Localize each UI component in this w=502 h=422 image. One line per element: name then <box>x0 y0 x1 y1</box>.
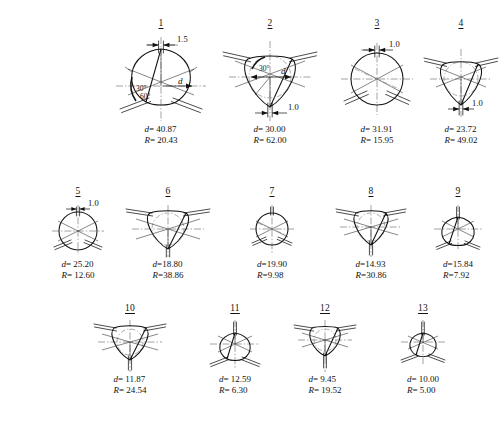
figure-5-d-value: = 25.20 <box>66 259 94 269</box>
figure-12-caption: d= 9.45 R= 19.52 <box>308 374 341 395</box>
figure-5: 5 1.0 d= 25.20 R <box>38 186 118 282</box>
figure-13-number: 13 <box>338 303 502 314</box>
figure-10-drawing <box>80 314 180 374</box>
figure-10-r-value: = 24.54 <box>119 385 147 395</box>
figure-6-r-value: =38.86 <box>158 270 183 280</box>
figure-1-caption: d= 40.87 R= 20.43 <box>144 124 177 145</box>
figure-3-caption: d= 31.91 R= 15.95 <box>360 124 393 145</box>
figure-sheet: 1 <box>0 0 502 422</box>
figure-4-r-value: = 49.02 <box>450 135 478 145</box>
figure-5-number: 5 <box>38 186 118 197</box>
figure-6-d-value: =18.80 <box>157 259 182 269</box>
figure-10-number: 10 <box>80 303 180 314</box>
figure-8-r-value: =30.86 <box>361 270 386 280</box>
figure-7-number: 7 <box>232 186 312 197</box>
figure-8-caption: d=14.93 R=30.86 <box>356 259 387 280</box>
figure-6-caption: d=18.80 R=38.86 <box>153 259 184 280</box>
figure-7-r-value: =9.98 <box>263 270 284 280</box>
figure-1-dimension: 1.5 <box>177 34 188 44</box>
figure-7: 7 d=19.90 R=9.98 <box>232 186 312 282</box>
figure-2-r-value: = 62.00 <box>259 135 287 145</box>
figure-4: 4 <box>420 18 502 147</box>
figure-2-angle-30: 30° <box>259 64 270 73</box>
figure-3: 3 <box>327 18 427 147</box>
figure-4-drawing: 1.0 <box>420 29 502 124</box>
figure-5-r-value: = 12.60 <box>67 270 95 280</box>
figure-8-drawing <box>326 197 416 259</box>
figure-5-dimension: 1.0 <box>88 198 99 208</box>
figure-6: 6 d=18.80 R=38.86 <box>118 186 218 282</box>
figure-7-drawing <box>232 197 312 259</box>
figure-2-d-value: = 30.00 <box>258 124 286 134</box>
figure-2-caption: d= 30.00 R= 62.00 <box>253 124 286 145</box>
figure-12-d-value: = 9.45 <box>313 374 336 384</box>
figure-9-caption: d=15.84 R=7.92 <box>443 259 473 280</box>
figure-3-r-value: = 15.95 <box>366 135 394 145</box>
figure-9-d-value: =15.84 <box>448 259 473 269</box>
figure-3-drawing: 1.0 <box>327 29 427 124</box>
figure-2-number: 2 <box>215 18 325 29</box>
figure-13: 13 d= 10.00 R= 5.00 <box>338 303 502 397</box>
figure-10-caption: d= 11.87 R= 24.54 <box>113 374 146 395</box>
figure-7-caption: d=19.90 R=9.98 <box>257 259 287 280</box>
figure-9-r-value: =7.92 <box>449 270 470 280</box>
figure-9-number: 9 <box>418 186 498 197</box>
figure-2-dimension: 1.0 <box>288 102 299 112</box>
figure-8-d-value: =14.93 <box>360 259 385 269</box>
figure-7-d-value: =19.90 <box>262 259 287 269</box>
figure-6-drawing <box>118 197 218 259</box>
figure-13-d-value: = 10.00 <box>411 374 439 384</box>
figure-5-caption: d= 25.20 R= 12.60 <box>61 259 94 280</box>
figure-4-number: 4 <box>420 18 502 29</box>
figure-3-dimension: 1.0 <box>389 39 400 49</box>
figure-9: 9 d=15.84 R=7.92 <box>418 186 498 282</box>
figure-10: 10 d= 11.87 R= 24.54 <box>80 303 180 397</box>
figure-8-number: 8 <box>326 186 416 197</box>
figure-13-drawing <box>383 314 463 374</box>
figure-5-drawing: 1.0 <box>38 197 118 259</box>
figure-4-caption: d= 23.72 R= 49.02 <box>444 124 477 145</box>
figure-3-number: 3 <box>327 18 427 29</box>
figure-13-caption: d= 10.00 R= 5.00 <box>407 374 439 395</box>
figure-4-d-value: = 23.72 <box>449 124 477 134</box>
figure-4-dimension: 1.0 <box>472 98 483 108</box>
figure-6-number: 6 <box>118 186 218 197</box>
figure-2: 2 <box>215 18 325 147</box>
figure-1-angle-60: 60° <box>140 92 151 101</box>
figure-9-drawing <box>418 197 498 259</box>
figure-1-drawing: 30° 60° d 1.5 <box>106 29 216 124</box>
figure-1-r-value: = 20.43 <box>150 135 178 145</box>
figure-1-d-value: = 40.87 <box>149 124 177 134</box>
figure-10-d-value: = 11.87 <box>118 374 145 384</box>
figure-13-r-value: = 5.00 <box>412 385 435 395</box>
figure-1-number: 1 <box>106 18 216 29</box>
figure-2-drawing: 30° d 1.0 <box>215 29 325 124</box>
figure-8: 8 d=14.93 R=30.86 <box>326 186 416 282</box>
figure-3-d-value: = 31.91 <box>365 124 393 134</box>
figure-2-d-symbol: d <box>281 66 286 76</box>
figure-1-d-symbol: d <box>178 76 183 86</box>
figure-1: 1 <box>106 18 216 147</box>
